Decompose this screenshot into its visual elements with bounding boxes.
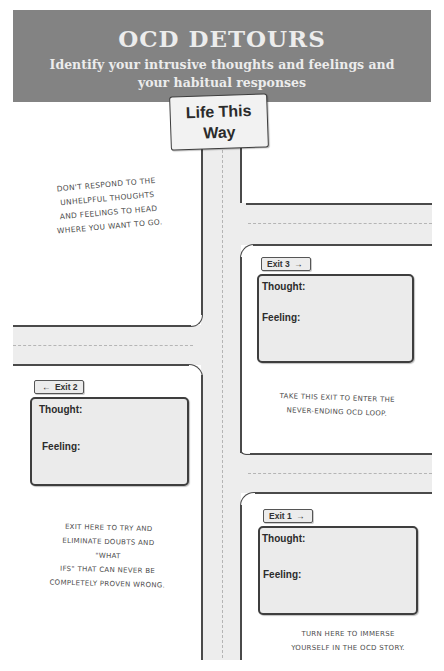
main-road: [201, 148, 241, 660]
road-edge: [250, 453, 432, 455]
note-line: YOURSELF IN THE OCD STORY.: [283, 641, 413, 655]
road-edge: [240, 148, 242, 203]
main-road-note: DON'T RESPOND TO THE UNHELPFUL THOUGHTS …: [46, 173, 170, 239]
exit3-tag: Exit 3 →: [261, 257, 311, 271]
arrow-right-icon: →: [296, 511, 305, 521]
note-line: COMPLETELY PROVEN WRONG.: [47, 575, 167, 592]
header-banner: OCD DETOURS Identify your intrusive thou…: [13, 10, 431, 102]
exit1-note: TURN HERE TO IMMERSE YOURSELF IN THE OCD…: [283, 627, 413, 655]
road-corner: [240, 440, 254, 455]
exit3-road: [241, 203, 432, 245]
thought-label: Thought:: [262, 533, 305, 544]
road-edge: [240, 257, 242, 453]
page-title: OCD DETOURS: [13, 26, 431, 52]
note-line: ELIMINATE DOUBTS AND "WHAT: [48, 533, 169, 564]
road-edge: [201, 375, 203, 660]
exit2-note: EXIT HERE TO TRY AND ELIMINATE DOUBTS AN…: [47, 519, 169, 592]
road-corner: [176, 364, 203, 386]
road-edge: [240, 505, 242, 660]
exit2-road-centerline: [13, 345, 193, 346]
road-edge: [13, 325, 191, 327]
exit-label: Exit 3: [267, 259, 290, 269]
arrow-right-icon: →: [294, 259, 303, 269]
exit1-tag: Exit 1 →: [263, 509, 313, 523]
exit1-road-centerline: [248, 473, 432, 474]
note-line: TURN HERE TO IMMERSE: [283, 627, 413, 641]
exit-label: Exit 2: [55, 382, 78, 392]
road-edge: [246, 203, 432, 205]
exit3-card[interactable]: Thought: Feeling:: [257, 274, 414, 363]
road-edge: [255, 492, 432, 494]
road-edge: [201, 148, 203, 315]
page-subtitle: Identify your intrusive thoughts and fee…: [35, 56, 409, 92]
exit3-road-centerline: [248, 223, 432, 224]
thought-label: Thought:: [262, 281, 305, 292]
main-road-centerline: [222, 150, 223, 658]
sign-line-2: Way: [171, 120, 268, 144]
feeling-label: Feeling:: [262, 312, 300, 323]
exit1-card[interactable]: Thought: Feeling:: [258, 526, 418, 615]
exit-label: Exit 1: [269, 511, 292, 521]
feeling-label: Feeling:: [263, 569, 301, 580]
exit3-note: TAKE THIS EXIT TO ENTER THE NEVER-ENDING…: [272, 389, 403, 422]
road-edge: [13, 364, 189, 366]
exit2-tag: ← Exit 2: [34, 380, 84, 394]
life-this-way-sign: Life This Way: [169, 93, 269, 150]
exit2-card[interactable]: Thought: Feeling:: [30, 397, 189, 486]
road-corner: [176, 305, 203, 327]
thought-label: Thought:: [39, 404, 82, 415]
feeling-label: Feeling:: [42, 441, 80, 452]
arrow-left-icon: ←: [42, 382, 51, 392]
road-edge: [253, 244, 432, 246]
